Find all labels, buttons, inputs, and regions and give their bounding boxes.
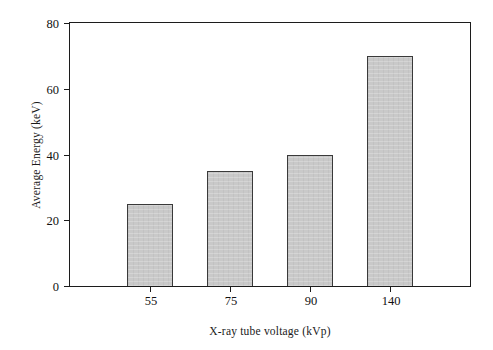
y-tick-label-20: 20 [47,214,60,229]
y-tick-40: 40 [64,155,70,156]
y-tick-label-80: 80 [47,17,60,32]
y-tick-label-40: 40 [47,148,60,163]
bar-texture [368,57,412,286]
y-tick-0: 0 [64,286,70,287]
bar-90 [287,155,333,287]
y-tick-80: 80 [64,23,70,24]
y-axis-title: Average Energy (keV) [30,23,48,287]
bar-texture [128,205,172,286]
bar-55 [127,204,173,286]
bar-texture [288,156,332,287]
y-tick-label-60: 60 [47,82,60,97]
x-tick-75: 75 [230,286,231,292]
bar-texture [208,172,252,286]
x-axis-title: X-ray tube voltage (kVp) [69,325,471,337]
x-tick-label-90: 90 [305,294,318,309]
bar-chart-figure: Average Energy (keV) 0 20 40 60 80 [0,0,493,350]
y-tick-20: 20 [64,220,70,221]
plot-area: 0 20 40 60 80 [69,22,471,287]
y-tick-label-0: 0 [53,280,59,295]
y-tick-60: 60 [64,89,70,90]
x-tick-label-75: 75 [225,294,238,309]
x-tick-label-140: 140 [382,294,401,309]
plot-inner: 0 20 40 60 80 [70,23,470,286]
x-tick-55: 55 [150,286,151,292]
bar-75 [207,171,253,286]
bar-140 [367,56,413,286]
x-tick-label-55: 55 [145,294,158,309]
x-tick-90: 90 [310,286,311,292]
x-tick-140: 140 [390,286,391,292]
